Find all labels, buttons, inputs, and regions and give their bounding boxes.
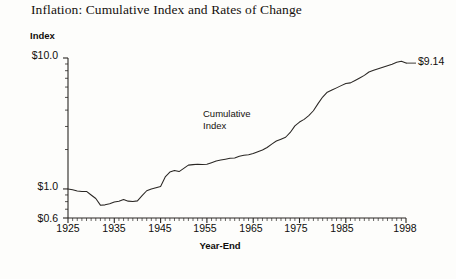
chart-figure: Inflation: Cumulative Index and Rates of… — [0, 0, 456, 279]
y-axis-ticks — [63, 58, 68, 218]
axis-lines — [68, 58, 406, 218]
x-axis-ticks — [68, 218, 406, 223]
plot-area — [0, 0, 456, 279]
series-line-cumulative-index — [68, 61, 406, 205]
